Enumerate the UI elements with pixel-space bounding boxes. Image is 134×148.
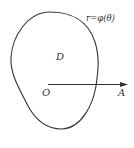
polar-region-diagram: r=φ(θ) D O A (0, 0, 134, 148)
curve-label: r=φ(θ) (86, 13, 115, 23)
closed-curve-boundary (11, 12, 98, 129)
ray-end-label: A (117, 87, 125, 98)
origin-label: O (42, 87, 50, 98)
region-label: D (55, 51, 64, 62)
